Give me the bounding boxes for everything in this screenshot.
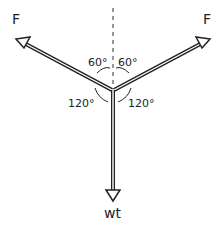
angle-label-right-120: 120° bbox=[128, 97, 155, 110]
angle-label-right-60: 60° bbox=[118, 56, 138, 69]
weight-arrowhead bbox=[106, 190, 120, 201]
angle-label-left-60: 60° bbox=[88, 56, 108, 69]
angle-label-left-120: 120° bbox=[68, 97, 95, 110]
right-force-label: F bbox=[203, 11, 211, 27]
weight-arrow bbox=[106, 90, 120, 201]
angle-arc-left-120 bbox=[95, 88, 108, 102]
force-diagram: F F wt 60° 60° 120° 120° bbox=[0, 0, 224, 230]
left-force-label: F bbox=[12, 11, 20, 27]
weight-label: wt bbox=[104, 205, 121, 221]
